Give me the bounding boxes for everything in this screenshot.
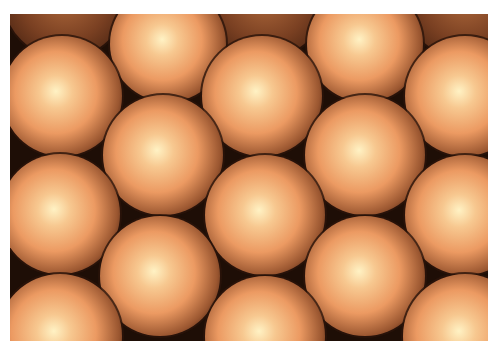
sphere-canvas <box>10 14 488 341</box>
sphere-image <box>10 14 488 341</box>
sphere-group <box>10 14 488 341</box>
sphere <box>103 95 223 215</box>
